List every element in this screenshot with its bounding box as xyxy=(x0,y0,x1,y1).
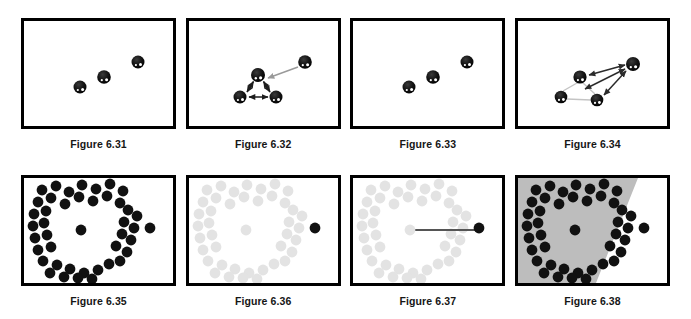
ring-dot xyxy=(554,199,565,210)
ring-dot xyxy=(202,256,213,267)
ring-dot xyxy=(38,256,49,267)
ring-dot xyxy=(45,268,56,279)
ring-dot xyxy=(42,230,53,241)
ring-dot xyxy=(598,259,609,270)
ring-dot xyxy=(582,196,593,207)
ring-dot xyxy=(370,206,381,217)
ring-dot xyxy=(37,185,48,196)
ring-dot xyxy=(275,241,286,252)
quad-arrows-634 xyxy=(518,21,667,126)
ring-dots-638 xyxy=(518,178,667,283)
ring-dot xyxy=(362,197,373,208)
sphere xyxy=(403,81,416,94)
ring-dot xyxy=(620,235,631,246)
ring-dot xyxy=(237,273,248,283)
ring-dot xyxy=(567,273,578,283)
ring-dot xyxy=(215,181,226,192)
figure-frame-635 xyxy=(21,175,176,286)
center-dot xyxy=(405,225,416,236)
sphere xyxy=(573,70,586,83)
figure-canvas-631 xyxy=(24,21,173,126)
ring-dot xyxy=(252,196,263,207)
ring-dot xyxy=(209,268,220,279)
center-dot xyxy=(76,225,87,236)
ring-dot xyxy=(115,256,126,267)
ring-dot xyxy=(194,233,205,244)
ring-dot xyxy=(286,247,297,258)
figure-caption-637: Figure 6.37 xyxy=(400,295,457,307)
ring-dot xyxy=(129,223,140,234)
ring-dot xyxy=(201,185,212,196)
ring-dot xyxy=(197,245,208,256)
ring-dot xyxy=(461,211,472,222)
outside-dot xyxy=(639,223,650,234)
ring-dot xyxy=(623,223,634,234)
figure-frame-634 xyxy=(515,18,670,129)
ring-dot xyxy=(126,235,137,246)
ring-dot xyxy=(64,187,75,198)
ring-dot xyxy=(283,217,294,228)
figure-panel-635: Figure 6.35 xyxy=(20,175,177,307)
ring-dot xyxy=(533,218,544,229)
scatter-spheres-633 xyxy=(353,21,502,126)
ring-dot xyxy=(522,221,533,232)
ring-dot xyxy=(359,233,370,244)
ring-dot xyxy=(402,273,413,283)
ring-dot xyxy=(375,242,386,253)
ring-dot xyxy=(93,265,104,276)
ring-dot xyxy=(269,179,280,190)
ring-dot xyxy=(241,180,252,191)
ring-dot xyxy=(599,179,610,190)
ring-dot xyxy=(388,272,399,283)
ring-dot xyxy=(444,256,455,267)
ring-dot xyxy=(447,186,458,197)
ring-dot xyxy=(268,259,279,270)
ring-dot xyxy=(203,218,214,229)
ring-dot xyxy=(41,206,52,217)
ring-dot xyxy=(553,272,564,283)
ring-dot xyxy=(375,193,386,204)
ring-dot xyxy=(105,179,116,190)
ring-dot xyxy=(293,223,304,234)
ring-dot xyxy=(587,265,598,276)
ring-dot xyxy=(223,272,234,283)
sphere xyxy=(97,70,111,84)
ring-dot xyxy=(536,230,547,241)
ring-dot xyxy=(403,192,414,203)
ring-dot xyxy=(523,209,534,220)
ring-dot xyxy=(540,193,551,204)
ring-dot xyxy=(281,229,292,240)
figure-canvas-634 xyxy=(518,21,667,126)
ring-dot xyxy=(596,191,607,202)
sphere xyxy=(132,56,145,69)
ring-dot xyxy=(527,197,538,208)
sphere xyxy=(269,91,282,104)
figure-sheet: Figure 6.31 xyxy=(0,0,691,319)
ring-dot xyxy=(29,209,40,220)
ring-dot xyxy=(452,205,463,216)
ring-dot xyxy=(406,180,417,191)
ring-dot xyxy=(224,199,235,210)
ring-dot xyxy=(59,272,70,283)
ring-dot xyxy=(613,217,624,228)
figure-canvas-635 xyxy=(24,178,173,283)
sphere xyxy=(591,94,604,107)
ring-dot xyxy=(257,265,268,276)
ring-dot xyxy=(527,245,538,256)
ring-dot xyxy=(102,191,113,202)
figure-panel-636: Figure 6.36 xyxy=(185,175,342,307)
figure-caption-634: Figure 6.34 xyxy=(564,138,621,150)
ring-dot xyxy=(434,179,445,190)
figure-panel-633: Figure 6.33 xyxy=(349,18,506,150)
figure-panel-632: Figure 6.32 xyxy=(185,18,342,150)
figure-frame-636 xyxy=(186,175,341,286)
ring-dot xyxy=(609,256,620,267)
ring-dot xyxy=(290,235,301,246)
ring-dot xyxy=(33,197,44,208)
ring-dot xyxy=(193,209,204,220)
figure-row-top: Figure 6.31 xyxy=(0,18,691,150)
ring-dot xyxy=(611,229,622,240)
ring-dot xyxy=(46,242,57,253)
figure-canvas-638 xyxy=(518,178,667,283)
ring-dot xyxy=(192,221,203,232)
